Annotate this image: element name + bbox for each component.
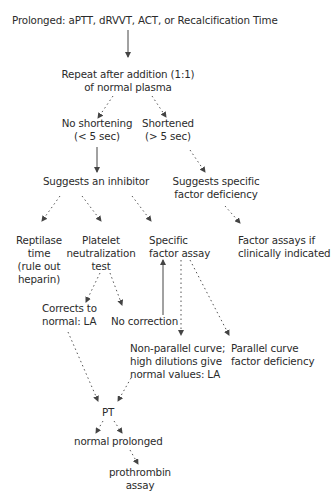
edge-shortened-deficiency <box>190 150 205 172</box>
node-reptilase-line: heparin) <box>16 273 62 286</box>
node-factor-assays-line: Factor assays if <box>238 234 331 247</box>
edge-inhibitor-platelet <box>82 196 101 221</box>
node-platelet-line: Platelet <box>66 234 135 247</box>
edge-corrects-pt <box>68 332 98 401</box>
node-corrects: Corrects to normal: LA <box>42 302 97 328</box>
node-start: Prolonged: aPTT, dRVVT, ACT, or Recalcif… <box>12 14 278 27</box>
node-nonparallel: Non-parallel curve; high dilutions give … <box>130 342 225 381</box>
node-parallel-line: factor deficiency <box>231 355 314 368</box>
node-factor-assays: Factor assays if clinically indicated <box>238 234 331 260</box>
node-repeat: Repeat after addition (1:1) of normal pl… <box>62 68 195 94</box>
edge-repeat-shortened <box>152 96 166 117</box>
node-parallel: Parallel curve factor deficiency <box>231 342 314 368</box>
node-pt-line: PT <box>102 406 114 419</box>
node-prothrombin: prothrombin assay <box>109 466 171 492</box>
node-normal-line: normal <box>74 435 109 448</box>
node-deficiency-line: Suggests specific <box>173 175 260 188</box>
node-shortened-line: (> 5 sec) <box>142 130 194 143</box>
node-inhibitor: Suggests an inhibitor <box>43 175 149 188</box>
node-platelet-line: neutralization <box>66 247 135 260</box>
node-corrects-line: normal: LA <box>42 315 97 328</box>
node-prolonged: prolonged <box>112 435 163 448</box>
node-start-line: Prolonged: aPTT, dRVVT, ACT, or Recalcif… <box>12 14 278 27</box>
edge-pt-normal <box>96 421 103 433</box>
node-nonparallel-line: normal values: LA <box>130 368 225 381</box>
node-prothrombin-line: prothrombin <box>109 466 171 479</box>
node-specific-assay-line: Specific <box>149 234 210 247</box>
edge-inhibitor-specific <box>132 196 151 221</box>
node-reptilase-line: (rule out <box>16 260 62 273</box>
edge-platelet-corrects <box>86 273 100 302</box>
node-parallel-line: Parallel curve <box>231 342 314 355</box>
node-specific-assay: Specific factor assay <box>149 234 210 260</box>
node-prothrombin-line: assay <box>109 479 171 492</box>
node-repeat-line: of normal plasma <box>62 81 195 94</box>
node-reptilase-line: time <box>16 247 62 260</box>
node-no-shortening: No shortening (< 5 sec) <box>62 117 133 143</box>
node-specific-assay-line: factor assay <box>149 247 210 260</box>
node-deficiency-line: factor deficiency <box>173 188 260 201</box>
node-no-shortening-line: (< 5 sec) <box>62 130 133 143</box>
edge-specific-parallel <box>190 260 229 335</box>
node-no-correction: No correction <box>111 315 178 328</box>
node-prolonged-line: prolonged <box>112 435 163 448</box>
node-platelet-line: test <box>66 260 135 273</box>
edge-pt-prolonged <box>114 421 122 433</box>
node-deficiency: Suggests specific factor deficiency <box>173 175 260 201</box>
node-no-correction-line: No correction <box>111 315 178 328</box>
node-nonparallel-line: high dilutions give <box>130 355 225 368</box>
node-shortened-line: Shortened <box>142 117 194 130</box>
node-inhibitor-line: Suggests an inhibitor <box>43 175 149 188</box>
edge-deficiency-factorassays <box>225 206 240 223</box>
edge-nonparallel-pt <box>118 378 131 401</box>
edge-platelet-nocorrection <box>110 273 122 305</box>
node-platelet: Platelet neutralization test <box>66 234 135 273</box>
node-corrects-line: Corrects to <box>42 302 97 315</box>
node-repeat-line: Repeat after addition (1:1) <box>62 68 195 81</box>
edge-prolonged-prothrombin <box>130 450 138 464</box>
node-factor-assays-line: clinically indicated <box>238 247 331 260</box>
node-reptilase-line: Reptilase <box>16 234 62 247</box>
node-reptilase: Reptilase time (rule out heparin) <box>16 234 62 286</box>
node-pt: PT <box>102 406 114 419</box>
node-normal: normal <box>74 435 109 448</box>
node-nonparallel-line: Non-parallel curve; <box>130 342 225 355</box>
edge-inhibitor-reptilase <box>42 196 60 221</box>
edge-repeat-noshort <box>98 96 113 118</box>
node-shortened: Shortened (> 5 sec) <box>142 117 194 143</box>
node-no-shortening-line: No shortening <box>62 117 133 130</box>
